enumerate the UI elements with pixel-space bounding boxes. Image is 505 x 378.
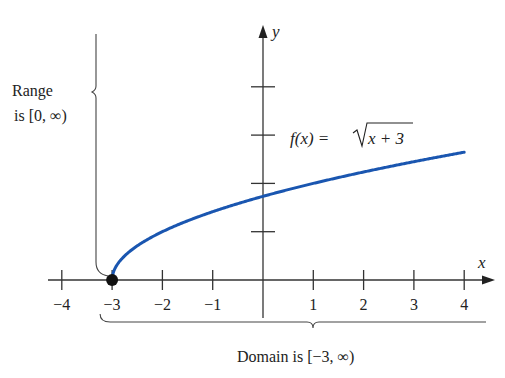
x-tick-label: −1 xyxy=(204,296,221,313)
range-annotation-line2: is [0, ∞) xyxy=(14,107,67,125)
x-tick-label: 3 xyxy=(410,296,418,313)
x-axis-arrow xyxy=(482,276,495,285)
endpoint-dot xyxy=(106,274,118,286)
y-axis-label: y xyxy=(270,22,280,41)
y-axis-arrow xyxy=(259,25,268,38)
function-label-radicand: x + 3 xyxy=(367,129,404,148)
range-brace xyxy=(92,34,108,276)
range-annotation-line1: Range xyxy=(12,82,53,100)
x-tick-label: −2 xyxy=(154,296,171,313)
function-graph: −4−3−2−11234 y x Range is [0, ∞) Domain … xyxy=(0,0,505,378)
x-tick-label: −3 xyxy=(104,296,121,313)
x-tick-label: −4 xyxy=(53,296,70,313)
domain-brace xyxy=(100,314,486,328)
function-label-lhs: f(x) = xyxy=(290,129,329,148)
x-tick-label: 2 xyxy=(360,296,368,313)
x-axis-label: x xyxy=(477,253,486,272)
function-curve xyxy=(112,152,464,280)
x-tick-label: 1 xyxy=(309,296,317,313)
x-tick-label: 4 xyxy=(460,296,468,313)
function-label: f(x) = x + 3 xyxy=(290,123,413,148)
domain-annotation: Domain is [−3, ∞) xyxy=(237,348,354,366)
